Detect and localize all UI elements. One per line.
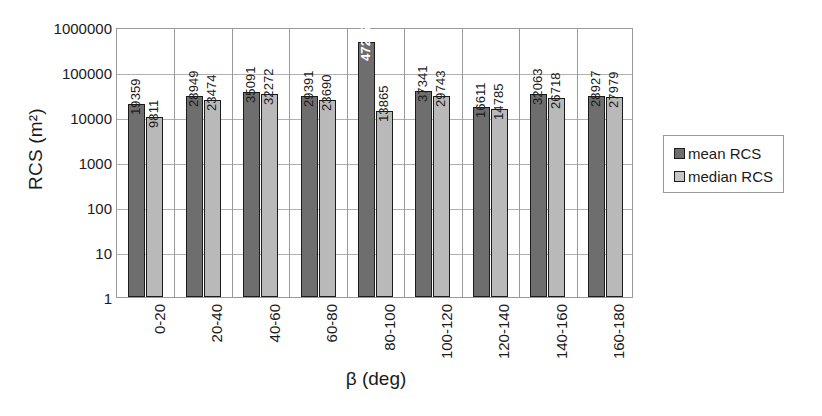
x-axis-category-label: 80-100	[381, 304, 398, 351]
bar-value-label: 23474	[205, 75, 218, 112]
x-axis-category-label: 40-60	[266, 304, 283, 342]
rcs-bar-chart: RCS (m²) 1000000100000100001000100101 19…	[0, 0, 822, 416]
bar-value-label: 27979	[607, 71, 620, 108]
y-axis-tick-label: 1000	[26, 156, 112, 171]
bar-median-rcs	[376, 111, 393, 297]
bar-mean-rcs	[530, 94, 547, 297]
legend-swatch-icon	[674, 148, 685, 159]
bar-value-label: 23690	[320, 74, 333, 111]
bar-mean-rcs	[128, 104, 145, 297]
bar-value-label: 19359	[129, 78, 142, 115]
bar-median-rcs	[606, 97, 623, 297]
bar-value-label: 29391	[302, 70, 315, 107]
bar-value-label: 28927	[589, 71, 602, 108]
bar-group: 3509132272	[232, 29, 289, 297]
x-axis-title: β (deg)	[246, 368, 506, 390]
x-axis-category-label: 160-180	[610, 304, 627, 359]
x-axis-category-label: 100-120	[438, 304, 455, 359]
y-axis-tick-label: 1	[26, 291, 112, 306]
bar-value-label: 29743	[434, 70, 447, 107]
x-axis-category-label: 20-40	[208, 304, 225, 342]
plot-area: 1935998112894923474350913227229391236904…	[116, 28, 633, 298]
bar-mean-rcs	[415, 91, 432, 297]
bar-group: 47217713865	[347, 29, 404, 297]
x-axis-category-label: 60-80	[323, 304, 340, 342]
y-axis-tick-label: 10000	[26, 111, 112, 126]
bar-value-label: 35091	[244, 67, 257, 104]
bar-group: 3734129743	[404, 29, 461, 297]
legend-item[interactable]: median RCS	[674, 165, 783, 188]
y-axis-tick-labels: 1000000100000100001000100101	[22, 0, 112, 416]
y-axis-tick-label: 10	[26, 246, 112, 261]
bar-mean-rcs	[243, 92, 260, 297]
x-axis-category-label: 140-160	[553, 304, 570, 359]
bar-value-label: 28949	[187, 71, 200, 108]
bar-value-label: 37341	[416, 66, 429, 103]
bar-value-label: 26718	[549, 72, 562, 109]
bar-value-label: 472177	[359, 17, 372, 61]
x-axis-title-text: β (deg)	[346, 368, 407, 389]
bar-mean-rcs	[186, 96, 203, 297]
bar-median-rcs	[319, 100, 336, 297]
x-axis-category-label: 0-20	[151, 304, 168, 334]
bar-group: 2892727979	[577, 29, 634, 297]
chart-legend: mean RCSmedian RCS	[663, 135, 784, 193]
bar-group: 1661114785	[462, 29, 519, 297]
bar-group: 2939123690	[289, 29, 346, 297]
bar-median-rcs	[548, 98, 565, 297]
bar-value-label: 16611	[474, 82, 487, 118]
bar-median-rcs	[146, 117, 163, 297]
bar-median-rcs	[433, 96, 450, 297]
legend-item[interactable]: mean RCS	[674, 142, 783, 165]
bar-mean-rcs	[358, 42, 375, 297]
bar-mean-rcs	[301, 96, 318, 297]
bar-mean-rcs	[588, 96, 605, 297]
y-axis-tick-label: 100	[26, 201, 112, 216]
bar-group: 193599811	[117, 29, 174, 297]
bar-value-label: 14785	[492, 84, 505, 121]
bar-group: 3206326718	[519, 29, 576, 297]
bar-value-label: 9811	[147, 100, 160, 128]
y-axis-tick-label: 100000	[26, 66, 112, 81]
bar-value-label: 13865	[377, 85, 390, 122]
bar-median-rcs	[204, 100, 221, 297]
bar-mean-rcs	[473, 107, 490, 297]
bar-group: 2894923474	[174, 29, 231, 297]
legend-label: mean RCS	[688, 145, 761, 162]
legend-swatch-icon	[674, 171, 685, 182]
x-axis-category-label: 120-140	[495, 304, 512, 359]
bar-median-rcs	[261, 94, 278, 297]
legend-label: median RCS	[688, 168, 773, 185]
bar-value-label: 32272	[262, 68, 275, 105]
bar-value-label: 32063	[531, 69, 544, 106]
bar-median-rcs	[491, 109, 508, 297]
y-axis-tick-label: 1000000	[26, 21, 112, 36]
